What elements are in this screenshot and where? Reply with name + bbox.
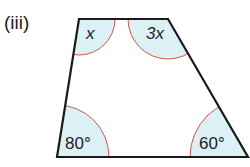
angle-arc-top-left (43, 0, 115, 55)
angle-arc-top-right (128, 0, 208, 59)
angle-label-bottom-left: 80° (65, 134, 91, 154)
angle-label-bottom-right: 60° (199, 134, 225, 154)
angle-label-top-right: 3x (146, 24, 164, 44)
angle-label-top-left: x (86, 24, 95, 44)
